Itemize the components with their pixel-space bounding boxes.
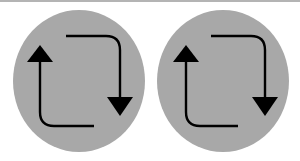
right-recycle-circle	[157, 10, 289, 152]
circle-shape-left	[13, 10, 145, 152]
image-canvas	[0, 0, 300, 161]
recycle-arrows-illustration	[0, 0, 300, 161]
left-recycle-circle	[13, 10, 145, 152]
circle-shape-right	[157, 10, 289, 152]
